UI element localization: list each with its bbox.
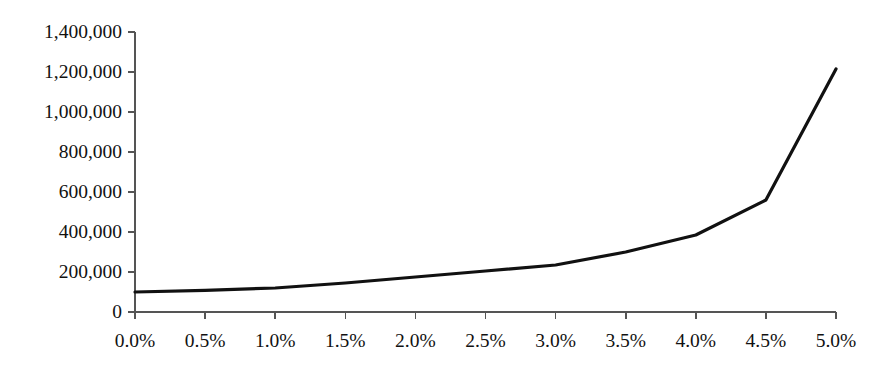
y-axis-tick-label: 400,000: [59, 222, 122, 242]
chart-data-line: [135, 69, 836, 292]
x-axis-tick-label: 3.5%: [605, 331, 646, 351]
x-axis-tick-label: 3.0%: [535, 331, 576, 351]
chart-tick-marks: [128, 32, 836, 319]
y-axis-tick-label: 200,000: [59, 262, 122, 282]
x-axis-tick-label: 1.0%: [255, 331, 296, 351]
x-axis-tick-label: 2.0%: [395, 331, 436, 351]
line-chart: 1,400,0001,200,0001,000,000800,000600,00…: [0, 0, 886, 373]
x-axis-tick-label: 0.5%: [185, 331, 226, 351]
y-axis-tick-label: 1,200,000: [44, 62, 122, 82]
y-axis-tick-label: 600,000: [59, 182, 122, 202]
y-axis-tick-label: 800,000: [59, 142, 122, 162]
y-axis-tick-label: 1,400,000: [44, 22, 122, 42]
y-axis-tick-label: 0: [112, 302, 122, 322]
x-axis-tick-label: 4.0%: [675, 331, 716, 351]
data-series-line: [135, 69, 836, 292]
x-axis-tick-label: 0.0%: [115, 331, 156, 351]
chart-plot-area: [0, 0, 886, 373]
x-axis-tick-label: 4.5%: [746, 331, 787, 351]
y-axis-tick-label: 1,000,000: [44, 102, 122, 122]
x-axis-tick-label: 5.0%: [816, 331, 857, 351]
x-axis-tick-label: 2.5%: [465, 331, 506, 351]
x-axis-tick-label: 1.5%: [325, 331, 366, 351]
